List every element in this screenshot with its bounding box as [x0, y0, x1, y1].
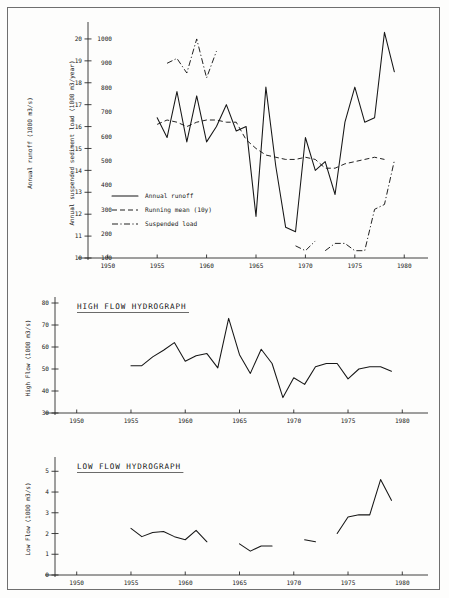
series-suspended-load: [296, 241, 316, 251]
y-tick-label: 15: [75, 145, 83, 152]
x-tick-label: 1965: [232, 579, 247, 586]
x-tick-label: 1960: [178, 579, 193, 586]
y-axis-title: Low Flow (1000 m3/s): [24, 482, 31, 555]
series-low-flow: [305, 540, 316, 542]
y-tick-label: 20: [75, 35, 83, 42]
figure-root: 1950195519601965197019751980101112131415…: [0, 0, 449, 598]
legend-label: Annual runoff: [145, 192, 194, 199]
figure-canvas: 1950195519601965197019751980101112131415…: [0, 0, 449, 598]
x-tick-label: 1975: [341, 417, 356, 424]
y-tick-label: 10: [75, 254, 83, 261]
series-low-flow: [337, 480, 391, 534]
y-tick-label: 50: [42, 365, 50, 372]
y-tick-label: 5: [45, 467, 49, 474]
x-tick-label: 1970: [286, 579, 301, 586]
y-tick-label: 17: [75, 101, 83, 108]
x-tick-label: 1975: [347, 262, 362, 269]
y2-tick-label: 400: [101, 181, 112, 188]
y-tick-label: 19: [75, 57, 83, 64]
y-tick-label: 60: [42, 343, 50, 350]
x-tick-label: 1965: [232, 417, 247, 424]
x-tick-label: 1960: [178, 417, 193, 424]
y-tick-label: 2: [45, 530, 49, 537]
y-tick-label: 12: [75, 210, 83, 217]
series-annual-runoff: [157, 32, 394, 231]
y-tick-label: 11: [75, 232, 83, 239]
y-tick-label: 1: [45, 550, 49, 557]
y-tick-label: 30: [42, 409, 50, 416]
y-tick-label: 80: [42, 299, 50, 306]
legend-label: Suspended load: [145, 220, 197, 228]
x-tick-label: 1980: [397, 262, 412, 269]
x-tick-label: 1975: [341, 579, 356, 586]
y2-tick-label: 800: [101, 84, 112, 91]
y2-axis-title: Annual suspended sediment load (1000 m3/…: [68, 60, 76, 225]
x-tick-label: 1950: [100, 262, 115, 269]
panel-title: HIGH FLOW HYDROGRAPH: [77, 302, 186, 311]
x-tick-label: 1980: [395, 417, 410, 424]
y-tick-label: 13: [75, 188, 83, 195]
x-tick-label: 1965: [249, 262, 264, 269]
x-tick-label: 1955: [124, 579, 139, 586]
chart-high-flow-hydrograph: 1950195519601965197019751980304050607080…: [24, 297, 428, 424]
y-tick-label: 14: [75, 167, 83, 174]
legend-label: Running mean (10y): [145, 206, 212, 214]
series-high-flow: [131, 318, 391, 397]
y2-tick-label: 300: [101, 206, 112, 213]
y-tick-label: 40: [42, 387, 50, 394]
series-suspended-load: [167, 39, 216, 78]
y2-tick-label: 500: [101, 157, 112, 164]
x-tick-label: 1950: [69, 417, 84, 424]
y-axis-title: High Flow (1000 m3/s): [24, 319, 32, 396]
y2-tick-label: 100: [101, 254, 112, 261]
chart-low-flow-hydrograph: 1950195519601965197019751980012345Low Fl…: [24, 457, 428, 586]
y2-tick-label: 600: [101, 133, 112, 140]
y-tick-label: 16: [75, 123, 83, 130]
y2-tick-label: 900: [101, 59, 112, 66]
x-tick-label: 1970: [286, 417, 301, 424]
x-tick-label: 1955: [150, 262, 165, 269]
y-tick-label: 0: [45, 571, 49, 578]
y2-tick-label: 700: [101, 108, 112, 115]
y2-tick-label: 1000: [97, 35, 112, 42]
x-tick-label: 1970: [298, 262, 313, 269]
x-tick-label: 1980: [395, 579, 410, 586]
y2-tick-label: 200: [101, 230, 112, 237]
y-tick-label: 3: [45, 509, 49, 516]
series-low-flow: [131, 528, 207, 541]
series-suspended-load: [325, 161, 394, 251]
panel-title: LOW FLOW HYDROGRAPH: [77, 462, 181, 471]
series-low-flow: [240, 544, 273, 551]
y-tick-label: 70: [42, 321, 50, 328]
x-tick-label: 1950: [69, 579, 84, 586]
x-tick-label: 1955: [124, 417, 139, 424]
y-tick-label: 18: [75, 79, 83, 86]
chart-annual-runoff-sediment: 1950195519601965197019751980101112131415…: [26, 22, 428, 269]
y-tick-label: 4: [45, 488, 49, 495]
y-axis-title: Annual runoff (1000 m3/s): [26, 97, 33, 189]
x-tick-label: 1960: [199, 262, 214, 269]
